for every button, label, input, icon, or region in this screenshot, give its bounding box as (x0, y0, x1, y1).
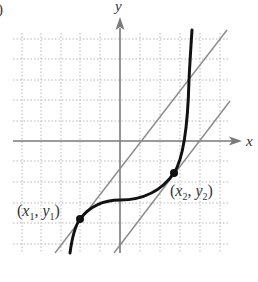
label-close-paren: ) (208, 182, 213, 200)
label-comma: , (187, 182, 195, 199)
point-x2-y2 (170, 169, 178, 177)
y-axis-label: y (113, 0, 122, 14)
panel-label: ) (0, 1, 3, 18)
label-comma: , (34, 202, 42, 219)
tangent-lines-diagram: ) x y (0, 0, 258, 282)
label-var-x: x (174, 182, 182, 199)
point-x1-y1 (76, 215, 84, 223)
point-label-x2-y2: (x2, y2) (170, 182, 213, 202)
x-axis-label: x (245, 133, 253, 149)
grid (13, 33, 229, 253)
point-label-x1-y1: (x1, y1) (17, 202, 60, 222)
label-var-x: x (21, 202, 29, 219)
label-close-paren: ) (55, 202, 60, 220)
